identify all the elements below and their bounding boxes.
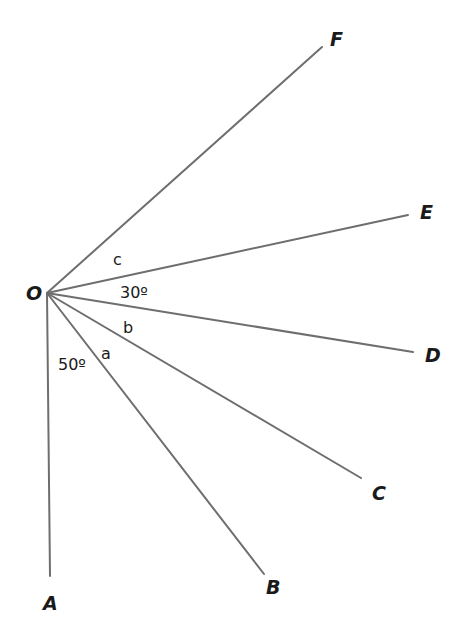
point-label-d: D bbox=[425, 344, 441, 366]
angle-labels: c 30º b a 50º bbox=[58, 250, 148, 374]
ray-oc bbox=[47, 293, 361, 478]
angle-label-a: a bbox=[101, 344, 111, 363]
ray-of bbox=[47, 47, 322, 293]
point-labels: O A B C D E F bbox=[26, 28, 441, 614]
point-label-b: B bbox=[266, 576, 280, 598]
ray-oa bbox=[47, 293, 50, 576]
angle-label-50-degrees: 50º bbox=[58, 355, 86, 374]
point-label-f: F bbox=[330, 28, 343, 50]
rays bbox=[47, 47, 413, 576]
point-label-a: A bbox=[41, 592, 58, 614]
angle-label-b: b bbox=[123, 318, 133, 337]
ray-oe bbox=[47, 215, 408, 293]
angle-diagram: O A B C D E F c 30º b a 50º bbox=[0, 0, 464, 626]
angle-label-c: c bbox=[113, 250, 122, 269]
ray-ob bbox=[47, 293, 264, 574]
point-label-e: E bbox=[420, 201, 433, 223]
point-label-c: C bbox=[372, 482, 386, 504]
angle-label-30-degrees: 30º bbox=[120, 283, 148, 302]
origin-label-o: O bbox=[26, 282, 42, 304]
